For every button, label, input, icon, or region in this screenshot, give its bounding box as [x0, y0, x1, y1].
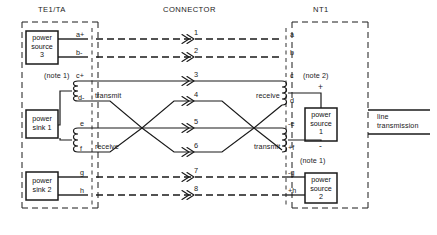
box-label-power-source-2: power source 2 — [305, 176, 337, 202]
connector-arrows — [182, 35, 194, 200]
connector-arrow-8 — [182, 191, 194, 200]
box-label-line: 1 — [305, 128, 337, 137]
box-label-line: 3 — [26, 51, 58, 60]
label-left-transmit: transmit — [95, 92, 121, 100]
right-pin-label-h: +h — [288, 187, 296, 195]
note-2-right: (note 2) — [303, 72, 329, 80]
right-pin-label-e: -e — [288, 120, 295, 128]
connector-arrow-2 — [182, 53, 194, 62]
right-pin-label-a: a — [290, 31, 294, 39]
left-pin-label-d: d- — [78, 94, 85, 102]
note-1-right: (note 1) — [300, 157, 326, 165]
right-pin-label-c: c — [290, 72, 294, 80]
coil-left-transmit-tap — [58, 91, 72, 125]
right-pin-label-f: +f — [288, 144, 294, 152]
polarity-minus-source-1: - — [319, 142, 322, 152]
connector-number-7: 7 — [194, 167, 198, 176]
connector-number-6: 6 — [194, 142, 198, 151]
right-pin-label-g: -g — [288, 169, 295, 177]
box-label-line: sink 2 — [26, 186, 58, 195]
left-pin-label-a: a+ — [76, 31, 84, 39]
line-transmission-label-line2: transmission — [377, 122, 419, 130]
box-label-power-source-3: power source 3 — [26, 34, 58, 60]
box-label-power-sink-1: power sink 1 — [26, 115, 58, 132]
label-right-transmit: transmit — [254, 143, 280, 151]
wiring-svg — [0, 0, 437, 235]
wire-pin-d — [78, 101, 282, 128]
polarity-plus-source-1: + — [318, 83, 323, 93]
label-right-receive: receive — [256, 92, 280, 100]
label-left-receive: receive — [95, 143, 119, 151]
header-te1-ta: TE1/TA — [38, 6, 66, 15]
left-pin-label-h: h — [80, 187, 84, 195]
box-label-power-source-1: power source 1 — [305, 111, 337, 137]
connector-split-lines — [92, 28, 286, 205]
left-pin-label-c: c+ — [76, 72, 84, 80]
left-pin-label-e: e — [80, 120, 84, 128]
isdn-wiring-diagram: TE1/TA CONNECTOR NT1 power source 3 powe… — [0, 0, 437, 235]
coil-left-receive — [60, 128, 78, 152]
connector-arrow-7 — [182, 173, 194, 182]
box-label-line: 2 — [305, 193, 337, 202]
coil-left-receive-tap — [60, 138, 72, 140]
note-1-left: (note 1) — [44, 72, 70, 80]
connector-number-5: 5 — [194, 118, 198, 127]
box-label-power-sink-2: power sink 2 — [26, 177, 58, 194]
header-nt1: NT1 — [313, 6, 329, 15]
coil-right-receive — [282, 81, 321, 108]
left-pin-label-b: b- — [76, 49, 83, 57]
connector-number-3: 3 — [194, 71, 198, 80]
coil-left-transmit — [58, 81, 78, 125]
connector-number-8: 8 — [194, 185, 198, 194]
left-pin-label-f: f — [80, 145, 82, 153]
right-pin-label-b: b — [290, 49, 294, 57]
connector-number-1: 1 — [194, 29, 198, 38]
box-label-line: sink 1 — [26, 124, 58, 133]
header-connector: CONNECTOR — [163, 6, 216, 15]
right-pin-label-d: d — [290, 97, 294, 105]
connector-number-4: 4 — [194, 91, 198, 100]
left-pin-label-g: g — [80, 169, 84, 177]
connector-number-2: 2 — [194, 47, 198, 56]
connector-arrow-1 — [182, 35, 194, 44]
